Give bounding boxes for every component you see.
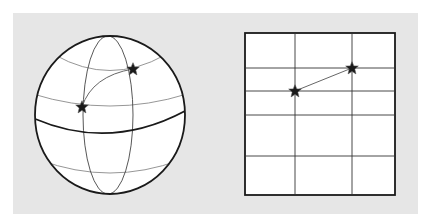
diagram-canvas — [0, 0, 430, 224]
sphere — [33, 36, 187, 194]
flat-map — [245, 33, 395, 195]
map-frame — [245, 33, 395, 195]
